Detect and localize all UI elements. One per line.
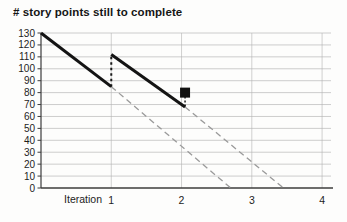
y-tick-label-0: 0 — [29, 183, 35, 194]
y-tick-label-120: 120 — [18, 39, 35, 50]
y-tick-label-50: 50 — [24, 123, 36, 134]
chart-canvas: 01020304050607080901001101201301234 — [0, 0, 347, 222]
y-tick-label-40: 40 — [24, 135, 36, 146]
y-tick-label-90: 90 — [24, 75, 36, 86]
burndown-chart: # story points still to complete 0102030… — [0, 0, 347, 222]
y-tick-label-80: 80 — [24, 87, 36, 98]
series-projection-after-iteration-1 — [111, 87, 230, 188]
y-tick-label-110: 110 — [19, 51, 35, 62]
series-iteration-1-burndown — [41, 33, 111, 87]
x-axis-label: Iteration — [40, 193, 102, 205]
x-tick-label-3: 3 — [249, 194, 255, 206]
x-tick-label-4: 4 — [319, 194, 325, 206]
y-tick-label-10: 10 — [24, 171, 36, 182]
y-tick-label-100: 100 — [18, 63, 35, 74]
y-tick-label-30: 30 — [24, 147, 36, 158]
x-tick-label-1: 1 — [108, 194, 114, 206]
actual-remaining-marker — [180, 88, 190, 98]
y-tick-label-60: 60 — [24, 111, 36, 122]
x-tick-label-2: 2 — [179, 194, 185, 206]
y-tick-label-70: 70 — [24, 99, 36, 110]
y-tick-label-20: 20 — [24, 159, 36, 170]
y-tick-label-130: 130 — [18, 28, 35, 39]
